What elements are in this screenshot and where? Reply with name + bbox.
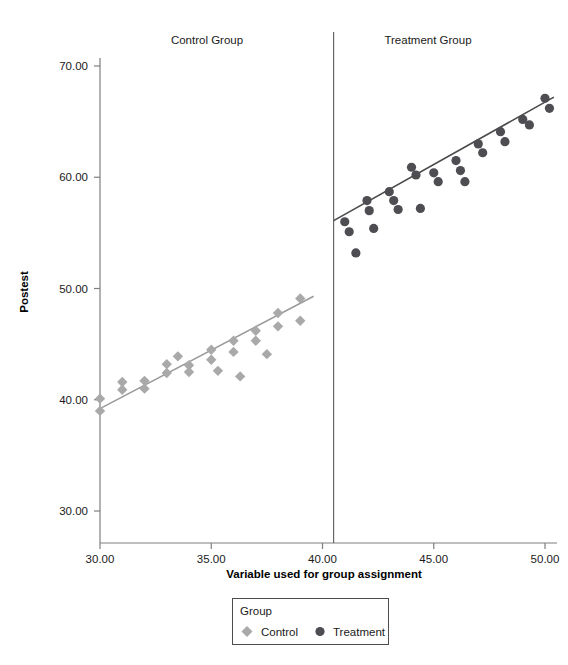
y-tick-label: 40.00 [59,394,88,406]
data-point [460,177,469,186]
data-point [456,166,465,175]
data-point [429,168,438,177]
data-point [407,163,416,172]
x-tick-label: 50.00 [531,553,560,565]
data-point [117,385,127,395]
panel-titles: Control Group Treatment Group [171,34,472,46]
panel-title-control: Control Group [171,34,243,46]
data-point [362,196,371,205]
data-point [365,206,374,215]
legend-label-control: Control [261,626,298,638]
x-tick-label: 40.00 [308,553,337,565]
data-point [434,177,443,186]
data-point [262,349,272,359]
data-point [162,368,172,378]
data-point [213,366,223,376]
data-point [525,120,534,129]
data-point [184,367,194,377]
data-point [416,204,425,213]
data-point [369,224,378,233]
x-tick-label: 45.00 [419,553,448,565]
y-tick-label: 30.00 [59,505,88,517]
control-diamond-icon [242,626,253,637]
data-point [389,196,398,205]
data-point [451,156,460,165]
legend-entry-treatment[interactable]: Treatment [315,626,385,638]
data-point [478,148,487,157]
data-point [273,321,283,331]
data-point [235,371,245,381]
data-point [295,316,305,326]
data-point [496,127,505,136]
legend-label-treatment: Treatment [333,626,386,638]
scatter-chart: Control Group Treatment Group 30.0040.00… [0,0,568,665]
data-point [411,170,420,179]
y-tick-label: 60.00 [59,171,88,183]
x-axis-title: Variable used for group assignment [226,568,422,580]
data-point [206,355,216,365]
chart-canvas: Control Group Treatment Group 30.0040.00… [0,0,568,665]
y-tick-label: 70.00 [59,60,88,72]
data-point [173,351,183,361]
y-tick-label: 50.00 [59,283,88,295]
data-point [206,344,216,354]
treatment-circle-icon [315,627,324,636]
y-axis-title: Postest [18,271,30,313]
legend-entry-control[interactable]: Control [242,626,299,638]
data-point [500,137,509,146]
data-point [228,347,238,357]
data-point [162,359,172,369]
x-tick-label: 35.00 [197,553,226,565]
legend: Group Control Treatment [233,599,389,645]
data-point [340,217,349,226]
data-point [251,326,261,336]
data-point [345,227,354,236]
data-point [385,187,394,196]
axes: 30.0040.0050.0060.0070.0030.0035.0040.00… [59,58,559,565]
data-point [394,205,403,214]
data-point [351,248,360,257]
data-point [540,94,549,103]
data-point [139,383,149,393]
data-point [545,104,554,113]
data-point [251,336,261,346]
legend-title: Group [240,605,272,617]
x-tick-label: 30.00 [86,553,115,565]
panel-title-treatment: Treatment Group [384,34,471,46]
data-point [95,393,105,403]
data-point [474,139,483,148]
data-points [95,94,554,416]
